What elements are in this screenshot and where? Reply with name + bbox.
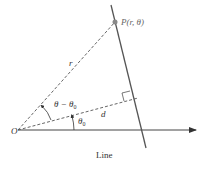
caption-line: Line	[96, 150, 113, 160]
point-p	[113, 20, 118, 25]
right-angle-marker	[122, 91, 130, 101]
radius-label: r	[69, 58, 73, 68]
distance-label: d	[101, 109, 106, 119]
angle-arc-theta-minus-theta0	[42, 106, 51, 120]
angle0-label: θ0	[78, 116, 85, 127]
point-label: P(r, θ)	[120, 17, 144, 27]
angle-diff-label: θ − θ0	[54, 99, 76, 110]
point-args: (r, θ)	[127, 17, 144, 27]
polar-line-diagram: O P(r, θ) r d θ − θ0 θ0 Line	[0, 0, 203, 173]
angle-arc-theta0	[72, 116, 74, 130]
origin-label: O	[11, 126, 18, 136]
